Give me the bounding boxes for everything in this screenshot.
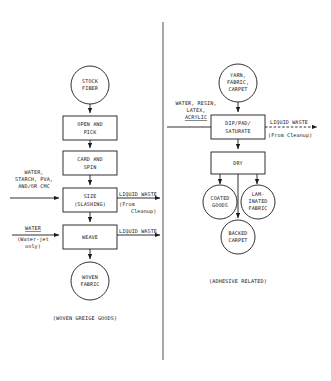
- caption-woven-greige-goods: (WOVEN GREIGE GOODS): [53, 315, 117, 321]
- node-open-and-pick-line1: OPEN AND: [77, 121, 102, 127]
- input-label-weave-line3: only): [25, 243, 41, 250]
- node-yarn-fabric-carpet-line2: FABRIC,: [227, 79, 249, 85]
- node-stock-fiber-line1: STOCK: [82, 78, 99, 84]
- input-label-dippad-line3: ACRYLIC: [185, 114, 207, 120]
- input-label-size-line3: AND/OR CMC: [18, 183, 50, 189]
- output-label-dippad-line2: (From Cleanup): [268, 132, 312, 139]
- node-card-and-spin: [63, 151, 117, 175]
- input-label-size-line1: WATER,: [24, 169, 43, 175]
- node-card-and-spin-line1: CARD AND: [77, 156, 102, 162]
- node-open-and-pick-line2: PICK: [84, 129, 98, 135]
- node-woven-fabric-line2: FABRIC: [80, 281, 99, 287]
- node-laminated-fabric-line1: LAM-: [252, 191, 265, 197]
- output-label-size-line1: LIQUID WASTE: [119, 191, 157, 197]
- input-label-weave-line2: (Water-jet: [17, 236, 49, 243]
- node-dip-pad-saturate-line1: DIP/PAD/: [225, 120, 250, 126]
- output-label-weave-line1: LIQUID WASTE: [119, 228, 157, 234]
- node-laminated-fabric-line2: INATED: [248, 198, 267, 204]
- node-laminated-fabric-line3: FABRIC: [248, 205, 267, 211]
- node-yarn-fabric-carpet-line3: CARPET: [228, 86, 247, 92]
- node-dip-pad-saturate-line2: SATURATE: [225, 128, 250, 134]
- input-label-dippad-line1: WATER, RESIN,: [175, 100, 216, 106]
- input-label-size-line2: STARCH, PVA,: [15, 176, 53, 182]
- node-yarn-fabric-carpet-line1: YARN,: [230, 72, 246, 78]
- caption-adhesive-related: (ADHESIVE RELATED): [209, 278, 267, 284]
- input-label-weave-line1: WATER: [25, 225, 42, 231]
- output-label-dippad-line1: LIQUID WASTE: [270, 119, 308, 125]
- node-stock-fiber-line2: FIBER: [82, 85, 99, 91]
- flowchart-diagram: STOCK FIBER OPEN AND PICK CARD AND SPIN …: [0, 0, 331, 381]
- node-dip-pad-saturate: [211, 115, 265, 139]
- node-size-slashing: [63, 188, 117, 212]
- node-coated-goods-line2: GOODS: [212, 202, 228, 208]
- input-label-dippad-line2: LATEX,: [186, 107, 205, 113]
- node-coated-goods-line1: COATED: [210, 195, 229, 201]
- output-label-size-line3: Cleanup): [131, 208, 156, 215]
- node-size-slashing-line2: (SLASHING): [74, 201, 106, 207]
- node-backed-carpet-line2: CARPET: [228, 237, 247, 243]
- node-weave-line1: WEAVE: [82, 234, 98, 240]
- node-woven-fabric-line1: WOVEN: [82, 274, 98, 280]
- node-card-and-spin-line2: SPIN: [84, 164, 97, 170]
- node-dry-line1: DRY: [233, 160, 243, 166]
- node-size-slashing-line1: SIZE: [84, 193, 97, 199]
- node-backed-carpet-line1: BACKED: [228, 230, 247, 236]
- node-open-and-pick: [63, 116, 117, 140]
- output-label-size-line2: (From: [119, 201, 135, 207]
